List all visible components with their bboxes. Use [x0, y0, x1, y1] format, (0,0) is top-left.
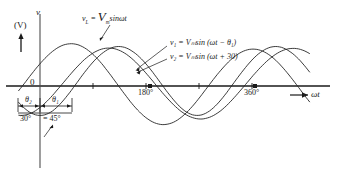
- waveform-figure: v (V) 0 vL = Vmsinωt v₁ = Vₘsin (ωt − θ₁…: [0, 0, 358, 178]
- leader-line-v2: [138, 59, 167, 72]
- x-tick-label-180: 180°: [138, 89, 153, 97]
- equation-vl-vm: V: [98, 9, 106, 24]
- equation-v2: v₂ = Vₘsin (ωt + 30): [170, 53, 238, 61]
- y-axis-arrow-head: [18, 33, 23, 39]
- theta1-symbol: θ₁: [52, 96, 59, 104]
- leader-line-vl: [101, 25, 110, 39]
- theta2-symbol: θ₂: [25, 96, 32, 104]
- leader-arrow-vl: [100, 37, 104, 41]
- theta2-value: 30°: [20, 115, 31, 123]
- origin-label: 0: [30, 78, 35, 87]
- equation-vl-rest: sinωt: [110, 14, 127, 23]
- curve-v1-lagging: [18, 48, 309, 119]
- x-axis-label: ωt: [311, 90, 320, 99]
- leader-arrow-45deg: [49, 125, 53, 129]
- equation-vl: vL = Vmsinωt: [82, 10, 127, 25]
- y-axis-symbol: v: [36, 8, 40, 17]
- equation-vl-equals: =: [88, 14, 97, 23]
- waveform-plot: [0, 0, 358, 178]
- theta1-arrow-right: [67, 104, 71, 107]
- equation-v1: v₁ = Vₘsin (ωt − θ₁): [170, 39, 236, 47]
- theta1-value: = 45°: [43, 115, 61, 123]
- theta2-arrow-right: [35, 104, 39, 107]
- y-axis-unit: (V): [14, 21, 27, 30]
- x-tick-label-360: 360°: [244, 89, 259, 97]
- curve-vl: [18, 47, 309, 116]
